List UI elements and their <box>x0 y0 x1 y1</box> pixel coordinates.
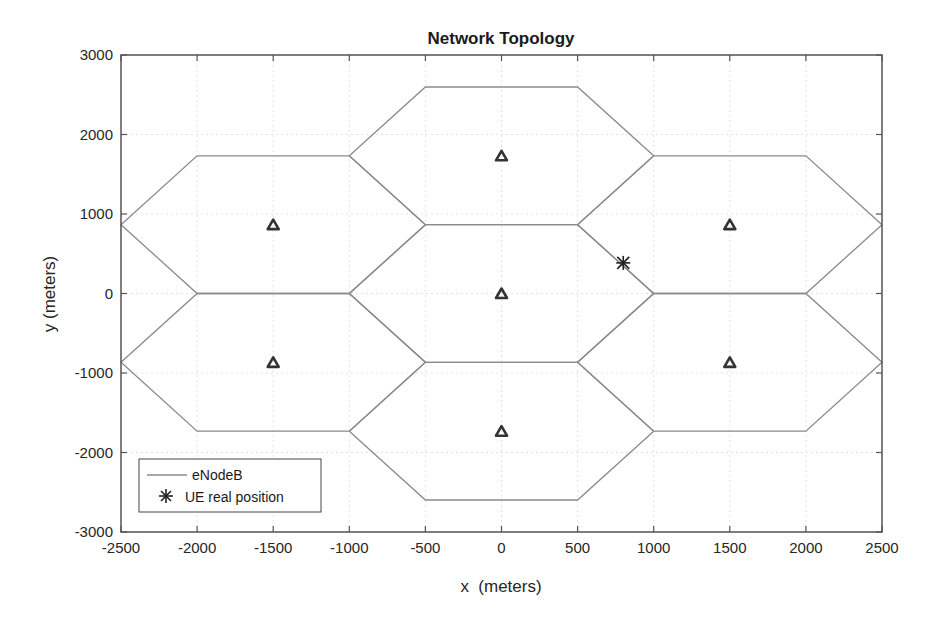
y-tick-label: -1000 <box>75 364 113 381</box>
x-axis-label: x (meters) <box>460 577 541 596</box>
y-tick-label: 2000 <box>80 126 113 143</box>
enodeb-triangle-icon <box>268 220 279 230</box>
y-tick-label: 0 <box>105 285 113 302</box>
enodeb-triangle-icon <box>724 220 735 230</box>
y-tick-label: 3000 <box>80 46 113 63</box>
x-tick-label: -500 <box>410 539 440 556</box>
x-tick-label: -2000 <box>178 539 216 556</box>
y-tick-label: -2000 <box>75 444 113 461</box>
x-tick-label: 1500 <box>713 539 746 556</box>
legend-label-ue: UE real position <box>185 489 284 505</box>
x-tick-label: 2000 <box>789 539 822 556</box>
chart-title: Network Topology <box>427 29 575 48</box>
x-tick-label: -2500 <box>102 539 140 556</box>
legend-asterisk-icon <box>159 489 173 503</box>
y-tick-label: -3000 <box>75 523 113 540</box>
x-tick-label: 2500 <box>865 539 898 556</box>
network-topology-figure: Network Topology -2500-2000-1500-1000-50… <box>0 0 935 626</box>
x-tick-label: 0 <box>497 539 505 556</box>
y-axis-label: y (meters) <box>40 256 59 333</box>
x-tick-label: -1500 <box>254 539 292 556</box>
y-tick-label: 1000 <box>80 205 113 222</box>
x-tick-label: -1000 <box>330 539 368 556</box>
x-tick-label: 1000 <box>637 539 670 556</box>
legend-label-enodeb: eNodeB <box>192 467 243 483</box>
legend: eNodeB UE real position <box>139 459 321 512</box>
ue-marker <box>616 256 630 270</box>
x-tick-label: 500 <box>565 539 590 556</box>
